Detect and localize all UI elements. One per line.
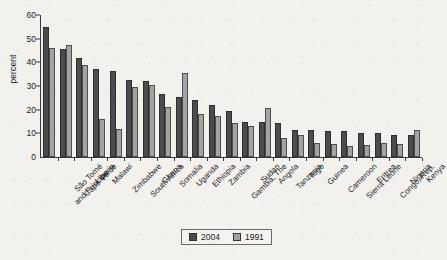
x-tick-mark: [140, 158, 141, 161]
legend-swatch-icon: [189, 233, 197, 241]
x-tick-mark: [107, 158, 108, 161]
x-tick-mark: [74, 158, 75, 161]
legend-swatch-icon: [233, 233, 241, 241]
x-tick-mark: [422, 158, 423, 161]
x-tick-mark: [58, 158, 59, 161]
x-tick-label: Guinea: [326, 162, 351, 187]
x-tick-mark: [207, 158, 208, 161]
x-tick-mark: [157, 158, 158, 161]
legend-item: 1991: [233, 232, 264, 242]
x-tick-mark: [389, 158, 390, 161]
x-tick-mark: [124, 158, 125, 161]
legend-label: 2004: [201, 232, 220, 242]
x-tick-mark: [289, 158, 290, 161]
chart-legend: 20041991: [181, 229, 272, 245]
x-tick-mark: [323, 158, 324, 161]
x-tick-mark: [174, 158, 175, 161]
x-tick-mark: [273, 158, 274, 161]
x-tick-mark: [306, 158, 307, 161]
x-tick-mark: [223, 158, 224, 161]
legend-item: 2004: [189, 232, 220, 242]
legend-label: 1991: [245, 232, 264, 242]
x-tick-mark: [339, 158, 340, 161]
x-tick-mark: [256, 158, 257, 161]
x-tick-mark: [372, 158, 373, 161]
x-tick-mark: [405, 158, 406, 161]
x-tick-mark: [356, 158, 357, 161]
x-tick-mark: [240, 158, 241, 161]
x-tick-mark: [91, 158, 92, 161]
x-tick-mark: [190, 158, 191, 161]
